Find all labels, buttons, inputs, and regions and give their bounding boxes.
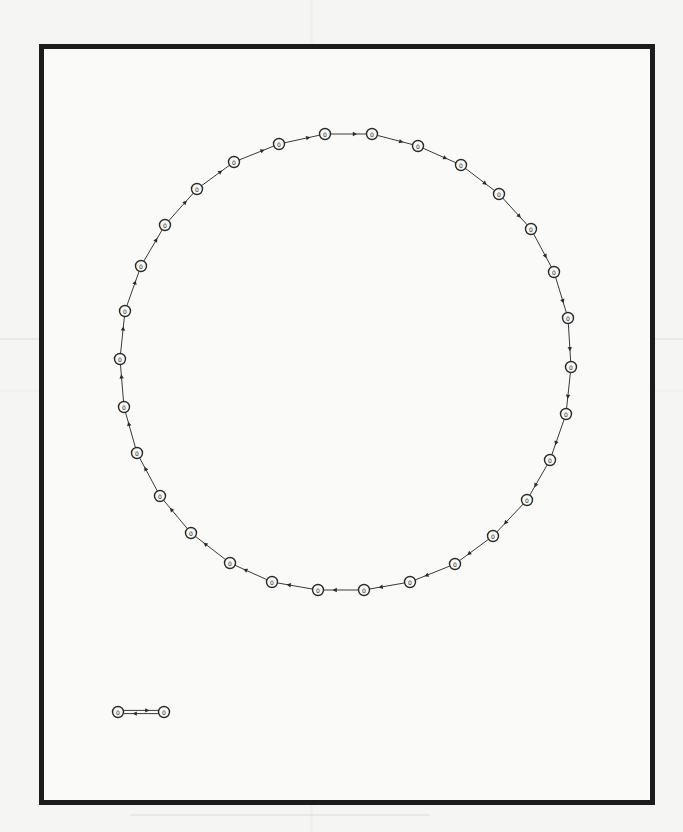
edge-line bbox=[534, 234, 552, 267]
edge-line bbox=[121, 316, 125, 353]
edge-line bbox=[552, 419, 564, 455]
node-label: 0 bbox=[195, 186, 199, 193]
arrowhead-icon bbox=[467, 551, 472, 555]
node-label: 0 bbox=[548, 457, 552, 464]
edge-line bbox=[140, 458, 158, 491]
edge-line bbox=[415, 566, 450, 580]
node-label: 0 bbox=[569, 364, 573, 371]
graph-node: 0 bbox=[274, 139, 285, 150]
node-label: 0 bbox=[408, 579, 412, 586]
graph-node: 0 bbox=[225, 558, 236, 569]
edge-line bbox=[465, 168, 494, 190]
graph-node: 0 bbox=[113, 707, 124, 718]
graph-node: 0 bbox=[313, 585, 324, 596]
graph-node: 0 bbox=[522, 495, 533, 506]
arrowhead-icon bbox=[379, 585, 384, 589]
graph-node: 0 bbox=[115, 354, 126, 365]
arrowhead-icon bbox=[353, 132, 357, 136]
graph-node: 0 bbox=[160, 220, 171, 231]
arrowhead-icon bbox=[218, 171, 223, 175]
node-label: 0 bbox=[123, 308, 127, 315]
graph-node: 0 bbox=[229, 157, 240, 168]
graph-node: 0 bbox=[132, 448, 143, 459]
node-label: 0 bbox=[566, 315, 570, 322]
node-label: 0 bbox=[316, 587, 320, 594]
node-label: 0 bbox=[270, 579, 274, 586]
node-label: 0 bbox=[158, 493, 162, 500]
graph-node: 0 bbox=[413, 141, 424, 152]
edge-line bbox=[503, 198, 528, 225]
edge-line bbox=[125, 412, 135, 447]
graph-node: 0 bbox=[549, 267, 560, 278]
graph-node: 0 bbox=[563, 313, 574, 324]
node-label: 0 bbox=[139, 263, 143, 270]
graph-node: 0 bbox=[405, 577, 416, 588]
node-label: 0 bbox=[525, 497, 529, 504]
graph-node: 0 bbox=[456, 160, 467, 171]
graph-node: 0 bbox=[186, 528, 197, 539]
arrowhead-icon bbox=[287, 583, 292, 587]
arrowhead-icon bbox=[306, 136, 311, 140]
node-label: 0 bbox=[162, 709, 166, 716]
arrowhead-icon bbox=[568, 347, 572, 351]
graph-node: 0 bbox=[159, 707, 170, 718]
edge-line bbox=[195, 536, 225, 559]
node-label: 0 bbox=[189, 530, 193, 537]
edge-line bbox=[530, 465, 548, 495]
edge-line bbox=[277, 583, 312, 589]
node-label: 0 bbox=[163, 222, 167, 229]
node-label: 0 bbox=[323, 131, 327, 138]
graph-node: 0 bbox=[320, 129, 331, 140]
edge-line bbox=[423, 148, 456, 163]
graph-node: 0 bbox=[450, 559, 461, 570]
graph-node: 0 bbox=[359, 585, 370, 596]
node-label: 0 bbox=[564, 411, 568, 418]
edge-line bbox=[235, 565, 267, 579]
graph-node: 0 bbox=[136, 261, 147, 272]
edge-line bbox=[164, 500, 188, 529]
graph-node: 0 bbox=[526, 224, 537, 235]
node-label: 0 bbox=[459, 162, 463, 169]
graph-node: 0 bbox=[545, 455, 556, 466]
node-label: 0 bbox=[416, 143, 420, 150]
graph-node: 0 bbox=[494, 189, 505, 200]
graph-node: 0 bbox=[120, 306, 131, 317]
node-label: 0 bbox=[228, 560, 232, 567]
edge-line bbox=[120, 364, 123, 401]
edge-layer bbox=[119, 132, 572, 716]
edge-line bbox=[239, 146, 274, 160]
edge-line bbox=[169, 193, 194, 221]
node-label: 0 bbox=[122, 404, 126, 411]
node-label: 0 bbox=[529, 226, 533, 233]
graph-canvas: 00000000000000000000000000000000 bbox=[0, 0, 683, 832]
arrowhead-icon bbox=[333, 588, 337, 592]
edge-line bbox=[201, 165, 229, 186]
edge-line bbox=[556, 277, 567, 312]
graph-node: 0 bbox=[192, 184, 203, 195]
arrowhead-icon bbox=[133, 711, 137, 715]
node-label: 0 bbox=[362, 587, 366, 594]
node-label: 0 bbox=[491, 533, 495, 540]
edge-line bbox=[567, 372, 571, 408]
graph-node: 0 bbox=[155, 491, 166, 502]
edge-line bbox=[568, 323, 570, 361]
edge-line bbox=[497, 504, 523, 532]
edge-line bbox=[459, 539, 488, 560]
arrowhead-icon bbox=[121, 326, 125, 330]
edge-line bbox=[377, 135, 412, 144]
node-label: 0 bbox=[497, 191, 501, 198]
arrowhead-icon bbox=[119, 374, 123, 378]
graph-node: 0 bbox=[566, 362, 577, 373]
graph-node: 0 bbox=[488, 531, 499, 542]
arrowhead-icon bbox=[399, 139, 404, 143]
node-label: 0 bbox=[370, 131, 374, 138]
arrowhead-icon bbox=[145, 708, 149, 712]
graph-node: 0 bbox=[561, 409, 572, 420]
edge-line bbox=[369, 583, 404, 589]
node-label: 0 bbox=[277, 141, 281, 148]
edge-line bbox=[284, 135, 319, 143]
node-label: 0 bbox=[453, 561, 457, 568]
node-label: 0 bbox=[232, 159, 236, 166]
node-label: 0 bbox=[135, 450, 139, 457]
edge-line bbox=[144, 230, 162, 262]
